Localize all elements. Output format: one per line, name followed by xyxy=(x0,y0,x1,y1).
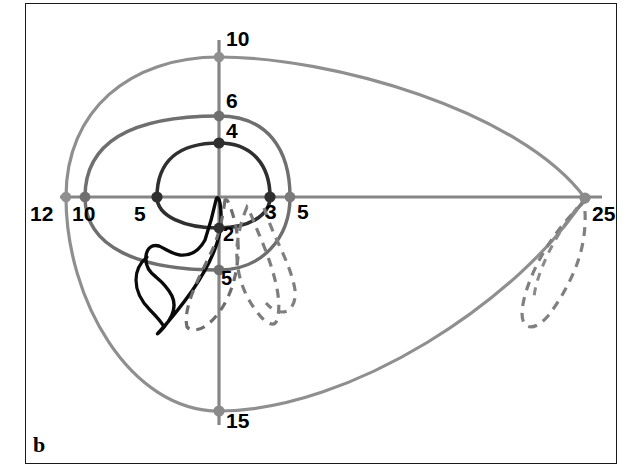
vertex-middle-right xyxy=(285,192,296,203)
vertex-outer-right xyxy=(579,192,590,203)
vertex-middle-up xyxy=(214,111,225,122)
vertex-outer-up xyxy=(214,52,224,62)
label-middle-down: 5 xyxy=(221,268,232,288)
label-outer-down: 15 xyxy=(226,410,249,431)
label-outer-up: 10 xyxy=(226,28,249,49)
solid-black-tracing-inner-detail xyxy=(136,257,164,327)
label-inner-down: 2 xyxy=(223,224,234,244)
vertex-outer-left xyxy=(61,192,71,202)
panel-letter: b xyxy=(33,432,45,458)
label-inner-left: 5 xyxy=(134,203,146,224)
label-inner-right: 3 xyxy=(265,201,277,222)
vertex-outer-down xyxy=(213,405,224,416)
vertex-inner-up xyxy=(213,137,224,148)
outer-curve xyxy=(66,57,585,411)
label-outer-left: 12 xyxy=(30,203,53,224)
label-middle-right: 5 xyxy=(297,201,309,222)
axes-group xyxy=(60,40,602,425)
middle-curve xyxy=(85,116,290,270)
vertex-middle-left xyxy=(80,192,91,203)
label-middle-up: 6 xyxy=(226,90,238,111)
vertex-inner-left xyxy=(151,191,162,202)
label-inner-up: 4 xyxy=(226,120,238,141)
figure-panel: 10 6 4 12 10 5 3 5 25 2 5 15 b xyxy=(0,0,629,473)
vertex-dots-group xyxy=(61,52,591,417)
label-middle-left: 10 xyxy=(72,203,95,224)
dashed-gray-tracing-right-outer xyxy=(522,203,585,327)
label-outer-right: 25 xyxy=(592,203,615,224)
plot-canvas xyxy=(0,0,629,473)
